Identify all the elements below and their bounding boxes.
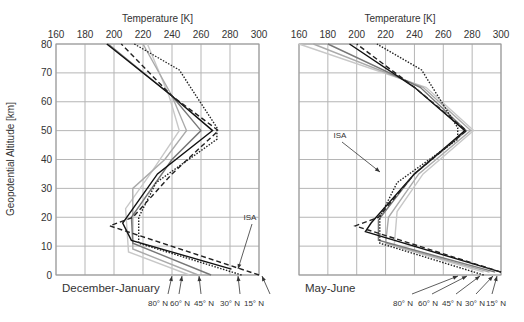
svg-text:30: 30	[41, 183, 53, 194]
svg-text:60: 60	[41, 96, 53, 107]
svg-text:180: 180	[77, 29, 94, 40]
series-30-n	[350, 44, 502, 272]
svg-text:30° N: 30° N	[220, 299, 240, 308]
x-tick-labels: 160180200220240260280300	[291, 29, 510, 40]
svg-text:ISA: ISA	[244, 213, 258, 222]
svg-text:60° N: 60° N	[418, 299, 438, 308]
svg-text:220: 220	[377, 29, 394, 40]
y-axis-label: Geopotential Altitude [km]	[5, 102, 16, 216]
svg-text:300: 300	[251, 29, 268, 40]
svg-text:260: 260	[193, 29, 210, 40]
latitude-annotations: 80° N60° N45° N30° N15° N	[393, 276, 506, 308]
svg-text:ISA: ISA	[334, 131, 348, 140]
svg-text:260: 260	[435, 29, 452, 40]
svg-text:240: 240	[406, 29, 423, 40]
figure: 1601802002202402602803000102030405060708…	[0, 0, 524, 322]
panel-may-june: 160180200220240260280300Temperature [K]M…	[291, 13, 510, 308]
x-axis-label: Temperature [K]	[364, 13, 435, 24]
svg-text:10: 10	[41, 241, 53, 252]
svg-text:160: 160	[291, 29, 308, 40]
svg-text:200: 200	[348, 29, 365, 40]
svg-text:45° N: 45° N	[194, 299, 214, 308]
svg-text:300: 300	[493, 29, 510, 40]
series-45-n	[328, 44, 495, 272]
panel-title: May-June	[305, 282, 356, 294]
svg-text:280: 280	[464, 29, 481, 40]
svg-text:45° N: 45° N	[442, 299, 462, 308]
svg-text:200: 200	[106, 29, 123, 40]
svg-text:80° N: 80° N	[148, 299, 168, 308]
latitude-annotations: 80° N60° N45° N30° N15° N	[148, 276, 270, 308]
series-30-n	[107, 44, 232, 269]
svg-text:15° N: 15° N	[486, 299, 506, 308]
svg-text:15° N: 15° N	[244, 299, 264, 308]
svg-text:0: 0	[46, 270, 52, 281]
svg-text:220: 220	[135, 29, 152, 40]
svg-text:30° N: 30° N	[465, 299, 485, 308]
svg-text:40: 40	[41, 154, 53, 165]
x-tick-labels: 160180200220240260280300	[48, 29, 268, 40]
svg-text:80° N: 80° N	[393, 299, 413, 308]
svg-text:180: 180	[320, 29, 337, 40]
svg-text:50: 50	[41, 125, 53, 136]
svg-text:280: 280	[222, 29, 239, 40]
isa-annotation: ISA	[238, 213, 258, 269]
series-15-n	[355, 44, 501, 272]
panel-title: December-January	[62, 282, 160, 294]
grid	[56, 44, 259, 275]
svg-text:80: 80	[41, 39, 53, 50]
svg-text:60° N: 60° N	[170, 299, 190, 308]
svg-text:70: 70	[41, 67, 53, 78]
svg-text:240: 240	[164, 29, 181, 40]
svg-text:20: 20	[41, 212, 53, 223]
y-tick-labels: 01020304050607080	[41, 39, 53, 281]
x-axis-label: Temperature [K]	[122, 13, 193, 24]
panel-december-january: 1601802002202402602803000102030405060708…	[41, 13, 270, 308]
